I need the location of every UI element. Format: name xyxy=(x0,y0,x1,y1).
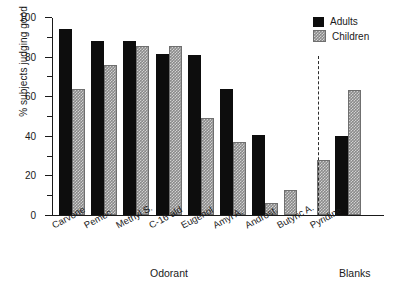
y-axis-minor-tick xyxy=(47,156,52,157)
chart-figure: % subjects judging good 020406080100 Car… xyxy=(0,0,397,290)
bar-group xyxy=(123,18,149,215)
y-axis-tick-label: 40 xyxy=(25,130,36,141)
plot-area: 020406080100 xyxy=(52,18,384,216)
y-axis-major-tick: 80 xyxy=(45,57,52,58)
bar-group-blanks xyxy=(335,18,361,215)
y-axis-major-tick: 0 xyxy=(45,215,52,216)
bar-adults xyxy=(156,54,169,215)
legend-swatch-adults-icon xyxy=(313,17,324,27)
chart-legend: Adults Children xyxy=(313,16,369,45)
y-axis-major-tick: 20 xyxy=(45,175,52,176)
bar-group xyxy=(156,18,182,215)
bar-adults xyxy=(59,29,72,215)
legend-label-children: Children xyxy=(332,31,369,42)
bar-children xyxy=(72,89,85,215)
bar-children xyxy=(348,90,361,215)
y-axis-major-tick: 40 xyxy=(45,136,52,137)
y-axis-major-tick: 60 xyxy=(45,96,52,97)
bar-children xyxy=(104,65,117,215)
y-axis-tick-label: 60 xyxy=(25,91,36,102)
y-axis-minor-tick xyxy=(47,116,52,117)
blanks-group-label: Blanks xyxy=(339,267,371,279)
bar-adults xyxy=(123,41,136,215)
bar-adults xyxy=(91,41,104,215)
y-axis-tick-label: 0 xyxy=(30,210,36,221)
bar-series-container xyxy=(53,18,384,215)
y-axis-minor-tick xyxy=(47,37,52,38)
y-axis-major-tick: 100 xyxy=(45,17,52,18)
bar-group xyxy=(252,18,278,215)
legend-label-adults: Adults xyxy=(330,16,358,27)
bar-group xyxy=(220,18,246,215)
legend-item-adults: Adults xyxy=(313,16,369,27)
bar-group xyxy=(284,18,310,215)
bar-children xyxy=(233,142,246,215)
bar-children xyxy=(201,118,214,215)
blanks-separator-line xyxy=(318,56,319,216)
bar-children xyxy=(169,46,182,215)
bar-adults xyxy=(220,89,233,215)
legend-swatch-children-icon xyxy=(313,30,326,42)
bar-adults xyxy=(335,136,348,215)
legend-item-children: Children xyxy=(313,30,369,42)
bar-group xyxy=(59,18,85,215)
x-axis-label: Odorant xyxy=(150,267,188,279)
y-axis-minor-tick xyxy=(47,76,52,77)
bar-adults xyxy=(252,135,265,215)
bar-children xyxy=(136,46,149,215)
y-axis-tick-label: 20 xyxy=(25,170,36,181)
bar-group xyxy=(188,18,214,215)
bar-adults xyxy=(188,55,201,215)
y-axis-tick-label: 80 xyxy=(25,51,36,62)
y-axis-minor-tick xyxy=(47,195,52,196)
y-axis-tick-label: 100 xyxy=(19,12,36,23)
bar-group xyxy=(91,18,117,215)
